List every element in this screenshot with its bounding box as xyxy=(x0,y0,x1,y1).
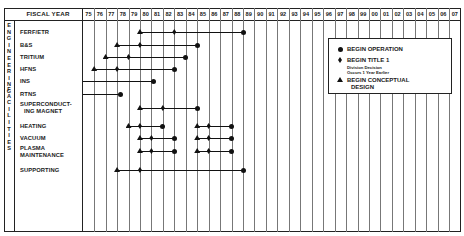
schedule-line xyxy=(197,126,231,127)
year-85: 85 xyxy=(197,8,208,20)
row-label-plasma-2: MAINTENANCE xyxy=(20,152,64,158)
gridline xyxy=(174,8,175,232)
year-95: 95 xyxy=(312,8,323,20)
year-80: 80 xyxy=(140,8,151,20)
circle-icon xyxy=(160,124,165,129)
gridline xyxy=(117,8,118,232)
schedule-line xyxy=(140,138,174,139)
row-label-ins: INS xyxy=(20,78,30,84)
row-label-hfns: HFNS xyxy=(20,66,36,72)
group-column-divider xyxy=(14,20,15,232)
gridline xyxy=(209,8,210,232)
year-78: 78 xyxy=(117,8,128,20)
gridline xyxy=(106,8,107,232)
year-91: 91 xyxy=(266,8,277,20)
legend-begin-operation: BEGIN OPERATION xyxy=(347,46,403,53)
year-01: 01 xyxy=(380,8,391,20)
year-05: 05 xyxy=(426,8,437,20)
circle-icon xyxy=(195,43,200,48)
circle-icon xyxy=(118,92,123,97)
year-92: 92 xyxy=(277,8,288,20)
schedule-line xyxy=(117,45,197,46)
legend-note-2: Occurs 1 Year Earlier xyxy=(347,70,389,75)
group-label-engineering: ENGINEERING xyxy=(4,22,14,95)
gridline xyxy=(300,8,301,232)
circle-icon xyxy=(241,168,246,173)
year-93: 93 xyxy=(289,8,300,20)
circle-icon xyxy=(195,106,200,111)
year-83: 83 xyxy=(174,8,185,20)
year-77: 77 xyxy=(106,8,117,20)
year-94: 94 xyxy=(300,8,311,20)
year-07: 07 xyxy=(449,8,460,20)
gridline xyxy=(266,8,267,232)
year-97: 97 xyxy=(335,8,346,20)
legend-design: DESIGN xyxy=(351,84,374,91)
gridline xyxy=(186,8,187,232)
year-81: 81 xyxy=(151,8,162,20)
legend-begin-title-1: BEGIN TITLE 1 xyxy=(347,57,389,64)
circle-icon xyxy=(241,30,246,35)
row-label-vacuum: VACUUM xyxy=(20,135,46,141)
year-76: 76 xyxy=(94,8,105,20)
year-00: 00 xyxy=(369,8,380,20)
row-label-superconducting-2: ING MAGNET xyxy=(24,108,62,114)
year-04: 04 xyxy=(415,8,426,20)
year-75: 75 xyxy=(83,8,94,20)
row-label-rtns: RTNS xyxy=(20,91,36,97)
group-label-facilities: FACILITIES xyxy=(4,86,14,152)
schedule-line xyxy=(129,126,163,127)
gridline xyxy=(94,8,95,232)
row-label-plasma-1: PLASMA xyxy=(20,145,45,151)
gridline xyxy=(163,8,164,232)
schedule-line xyxy=(117,170,243,171)
row-label-superconducting-1: SUPERCONDUCT- xyxy=(20,101,72,107)
year-86: 86 xyxy=(209,8,220,20)
row-label-supporting: SUPPORTING xyxy=(20,167,59,173)
schedule-line xyxy=(106,57,186,58)
row-label-tritium: TRITIUM xyxy=(20,54,44,60)
circle-icon xyxy=(229,149,234,154)
legend: BEGIN OPERATION BEGIN TITLE 1 Division D… xyxy=(328,38,452,94)
gridline xyxy=(254,8,255,232)
schedule-line xyxy=(83,94,121,95)
gridline xyxy=(243,8,244,232)
year-06: 06 xyxy=(438,8,449,20)
circle-icon xyxy=(183,55,188,60)
circle-icon xyxy=(172,67,177,72)
schedule-line xyxy=(197,138,231,139)
fiscal-year-header: FISCAL YEAR xyxy=(14,10,82,17)
circle-icon xyxy=(172,136,177,141)
gridline xyxy=(323,8,324,232)
year-03: 03 xyxy=(403,8,414,20)
gridline xyxy=(289,8,290,232)
year-87: 87 xyxy=(220,8,231,20)
year-82: 82 xyxy=(163,8,174,20)
label-column-divider xyxy=(82,8,83,232)
row-label-heating: HEATING xyxy=(20,123,46,129)
schedule-line xyxy=(140,108,197,109)
gridline xyxy=(232,8,233,232)
gridline xyxy=(140,8,141,232)
circle-icon xyxy=(229,124,234,129)
triangle-icon xyxy=(337,77,343,82)
year-99: 99 xyxy=(358,8,369,20)
schedule-line xyxy=(94,69,174,70)
gridline xyxy=(277,8,278,232)
schedule-line xyxy=(83,81,154,82)
circle-icon xyxy=(172,149,177,154)
gridline xyxy=(151,8,152,232)
gridline xyxy=(197,8,198,232)
year-89: 89 xyxy=(243,8,254,20)
diamond-icon xyxy=(338,57,342,63)
circle-icon xyxy=(338,47,343,52)
row-label-ferf: FERF/ETR xyxy=(20,29,49,35)
gridline xyxy=(220,8,221,232)
circle-icon xyxy=(229,136,234,141)
year-02: 02 xyxy=(392,8,403,20)
schedule-line xyxy=(197,151,231,152)
year-88: 88 xyxy=(232,8,243,20)
year-84: 84 xyxy=(186,8,197,20)
year-96: 96 xyxy=(323,8,334,20)
year-98: 98 xyxy=(346,8,357,20)
